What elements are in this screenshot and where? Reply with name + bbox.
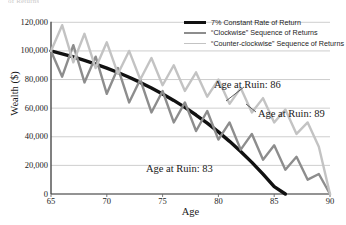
y-axis-tick-labels: 120,000100,00080,00060,00040,00020,0000	[0, 0, 48, 225]
x-axis-label: Age	[51, 206, 330, 217]
y-axis-label: Wealth ($)	[9, 54, 20, 134]
legend-label-constant: 7% Constant Rate of Return	[211, 18, 301, 27]
annotation-ruin-89: Age at Ruin: 89	[258, 108, 325, 119]
y-tick-label: 20,000	[2, 160, 48, 170]
annotation-ruin-86: Age at Ruin: 86	[214, 79, 281, 90]
annotation-ruin-83: Age at Ruin: 83	[146, 163, 213, 174]
legend-label-clockwise: “Clockwise” Sequence of Returns	[211, 28, 318, 37]
chart-figure: of Returns 120,000100,00080,00060,00040,…	[0, 0, 346, 225]
legend-swatch-counter-clockwise	[184, 43, 206, 44]
x-tick-label: 90	[315, 196, 345, 206]
legend-item-counter-clockwise: “Counter-clockwise” Sequence of Returns	[184, 38, 344, 49]
x-tick-label: 65	[36, 196, 66, 206]
legend: 7% Constant Rate of Return “Clockwise” S…	[184, 17, 344, 49]
legend-swatch-clockwise	[184, 32, 206, 34]
x-tick-label: 75	[148, 196, 178, 206]
x-tick-label: 85	[259, 196, 289, 206]
x-tick-label: 80	[203, 196, 233, 206]
legend-item-constant: 7% Constant Rate of Return	[184, 17, 344, 28]
x-tick-label: 70	[92, 196, 122, 206]
legend-label-counter-clockwise: “Counter-clockwise” Sequence of Returns	[211, 39, 344, 48]
y-tick-label: 120,000	[2, 17, 48, 27]
legend-item-clockwise: “Clockwise” Sequence of Returns	[184, 28, 344, 39]
legend-swatch-constant	[184, 21, 206, 24]
